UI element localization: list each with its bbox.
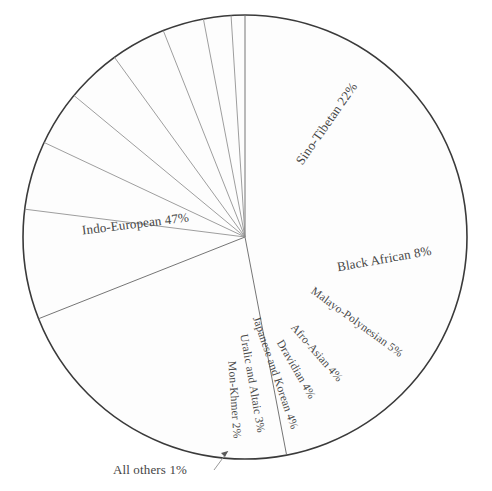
slice-label-all-others: All others 1% (113, 462, 187, 477)
pie-slices-group (23, 15, 467, 459)
pie-chart-figure: Indo-European 47%Sino-Tibetan 22%Black A… (0, 0, 492, 491)
pie-chart-canvas: Indo-European 47%Sino-Tibetan 22%Black A… (0, 0, 492, 491)
